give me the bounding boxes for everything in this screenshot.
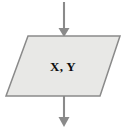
outbound-arrow — [59, 96, 70, 127]
inbound-arrow — [59, 2, 70, 37]
outbound-arrow-head — [59, 117, 70, 127]
flowchart-canvas: X, Y — [0, 0, 126, 129]
flowchart-svg: X, Y — [0, 0, 126, 129]
io-node-label: X, Y — [50, 59, 76, 74]
